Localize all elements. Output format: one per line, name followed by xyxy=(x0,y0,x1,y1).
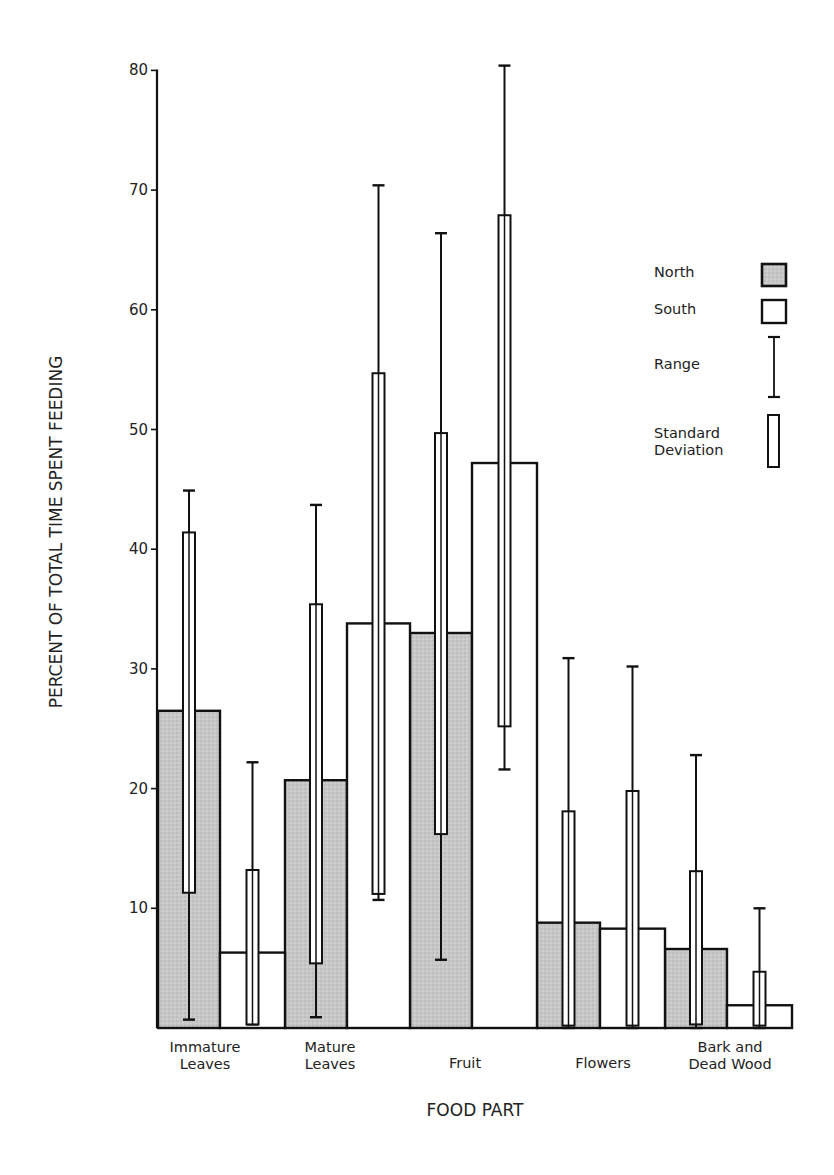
x-category-label: MatureLeaves xyxy=(305,1039,356,1072)
y-tick-label: 80 xyxy=(129,61,148,79)
x-category-label: Bark andDead Wood xyxy=(688,1039,771,1072)
y-tick-label: 20 xyxy=(129,780,148,798)
y-tick-label: 10 xyxy=(129,899,148,917)
x-category-label: Flowers xyxy=(575,1055,631,1071)
y-axis-title: PERCENT OF TOTAL TIME SPENT FEEDING xyxy=(46,356,66,709)
x-axis-labels: ImmatureLeavesMatureLeavesFruitFlowersBa… xyxy=(170,1039,772,1072)
legend-swatch-south xyxy=(762,300,786,323)
y-tick-label: 70 xyxy=(129,181,148,199)
legend-label-range: Range xyxy=(654,356,700,372)
legend: NorthSouthRangeStandardDeviation xyxy=(654,264,786,467)
x-category-label: Fruit xyxy=(449,1055,481,1071)
legend-sd-icon xyxy=(768,415,779,467)
legend-label-sd: StandardDeviation xyxy=(654,425,723,458)
y-tick-label: 40 xyxy=(129,540,148,558)
bar-chart: 1020304050607080 ImmatureLeavesMatureLea… xyxy=(0,0,834,1175)
y-tick-label: 60 xyxy=(129,301,148,319)
x-axis-title: FOOD PART xyxy=(427,1100,524,1120)
y-tick-label: 50 xyxy=(129,421,148,439)
legend-swatch-north xyxy=(762,264,786,286)
legend-label-north: North xyxy=(654,264,695,280)
x-category-label: ImmatureLeaves xyxy=(170,1039,241,1072)
y-tick-label: 30 xyxy=(129,660,148,678)
legend-label-south: South xyxy=(654,301,696,317)
